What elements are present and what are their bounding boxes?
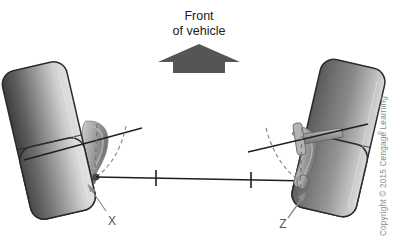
front-of-vehicle-line1: Front bbox=[184, 9, 214, 23]
up-arrow-icon bbox=[158, 44, 240, 73]
left-tire bbox=[0, 59, 98, 222]
tie-rod-line bbox=[96, 177, 310, 181]
copyright-notice: Copyright © 2015 Cengage Learning ® bbox=[377, 96, 388, 236]
front-of-vehicle-line2: of vehicle bbox=[173, 24, 226, 38]
right-wheel-assembly: Z bbox=[248, 57, 388, 231]
label-z: Z bbox=[279, 217, 286, 231]
right-pivot-joint bbox=[297, 175, 309, 189]
left-wheel-assembly: X bbox=[0, 59, 142, 228]
label-x: X bbox=[108, 214, 116, 228]
registered-mark-icon: ® bbox=[377, 131, 383, 135]
diagram-canvas: Front of vehicle bbox=[0, 0, 398, 240]
copyright-text: Copyright © 2015 Cengage Learning bbox=[379, 96, 388, 236]
tie-rod-group bbox=[96, 170, 310, 188]
steering-geometry-diagram: Front of vehicle bbox=[0, 0, 398, 240]
